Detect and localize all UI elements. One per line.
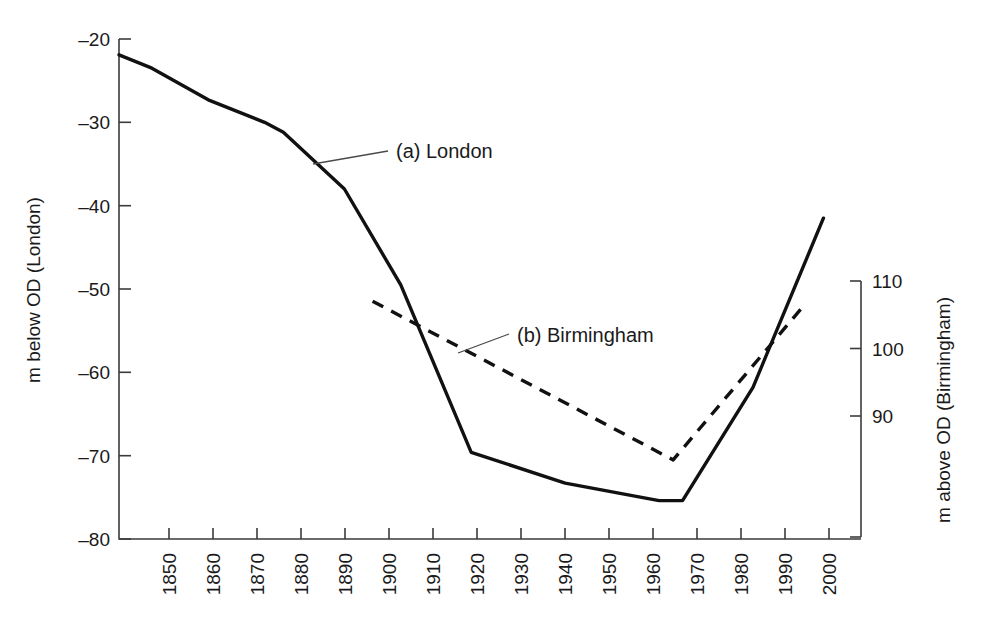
y-tick-label-6: –80 [78, 529, 110, 550]
x-tick-label-9: 1940 [555, 553, 576, 595]
chart-plot-area: –20 –30 –40 –50 –60 –70 –80 110 100 90 [0, 0, 984, 621]
x-tick-label-15: 2000 [819, 553, 840, 595]
y2-tick-label-0: 110 [872, 271, 902, 292]
right-axis-tick-labels: 110 100 90 [872, 271, 904, 427]
london-annotation-label: (a) London [396, 140, 493, 162]
x-tick-label-12: 1970 [687, 553, 708, 595]
x-tick-label-1: 1860 [203, 553, 224, 595]
y2-tick-label-2: 90 [872, 406, 893, 427]
x-tick-label-0: 1850 [159, 553, 180, 595]
x-tick-label-14: 1990 [775, 553, 796, 595]
x-tick-label-13: 1980 [731, 553, 752, 595]
y2-axis-title: m above OD (Birmingham) [933, 297, 954, 523]
left-axis-ticks [119, 122, 131, 455]
x-tick-label-5: 1900 [379, 553, 400, 595]
y-tick-label-5: –70 [78, 446, 110, 467]
y2-tick-label-1: 100 [872, 339, 904, 360]
series-line-london [119, 55, 823, 501]
right-axis-ticks [850, 349, 861, 417]
y-tick-label-3: –50 [78, 279, 110, 300]
left-bottom-axis [119, 39, 861, 539]
london-leader-line [313, 151, 388, 164]
x-tick-label-11: 1960 [643, 553, 664, 595]
y-tick-label-4: –60 [78, 362, 110, 383]
x-tick-label-2: 1870 [247, 553, 268, 595]
x-tick-label-8: 1930 [511, 553, 532, 595]
x-tick-label-3: 1880 [291, 553, 312, 595]
birmingham-annotation-label: (b) Birmingham [517, 324, 654, 346]
chart-figure: –20 –30 –40 –50 –60 –70 –80 110 100 90 [0, 0, 984, 621]
y-tick-label-0: –20 [78, 29, 110, 50]
birmingham-leader-line [458, 334, 509, 353]
y-tick-label-2: –40 [78, 196, 110, 217]
y-tick-label-1: –30 [78, 112, 110, 133]
x-tick-label-4: 1890 [335, 553, 356, 595]
left-axis-tick-labels: –20 –30 –40 –50 –60 –70 –80 [78, 29, 110, 550]
x-axis-ticks [169, 528, 829, 539]
x-tick-label-6: 1910 [423, 553, 444, 595]
x-tick-label-10: 1950 [599, 553, 620, 595]
x-axis-tick-labels: 1850 1860 1870 1880 1890 1900 1910 1920 … [159, 553, 840, 595]
x-tick-label-7: 1920 [467, 553, 488, 595]
y-axis-title: m below OD (London) [23, 197, 44, 383]
